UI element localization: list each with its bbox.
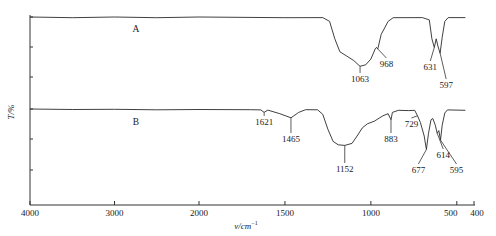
peak-leader-line <box>411 116 417 118</box>
x-tick-label: 4000 <box>21 208 40 218</box>
spectrum-curve-b <box>30 109 465 150</box>
peak-label: 597 <box>439 80 453 90</box>
x-tick-label: 400 <box>470 208 484 218</box>
peak-label: 1152 <box>336 164 354 174</box>
peak-label: 729 <box>405 119 419 129</box>
x-tick-label: 1000 <box>362 208 381 218</box>
peak-label: 631 <box>424 62 438 72</box>
spectrum-curve-a <box>30 17 465 66</box>
peak-leader-line <box>418 150 426 165</box>
peak-leader-line <box>437 133 443 149</box>
peak-label: 1621 <box>255 117 273 127</box>
x-tick-label: 1500 <box>276 208 295 218</box>
y-axis-title: T/% <box>6 104 16 119</box>
x-axis-title: ν/cm−1 <box>234 220 257 231</box>
peak-leader-line <box>376 47 386 58</box>
peak-label: 883 <box>384 134 398 144</box>
peak-label: 968 <box>380 59 394 69</box>
peak-label: 1465 <box>282 134 301 144</box>
x-tick-label: 3000 <box>106 208 125 218</box>
peak-annotations: 1063968631597162114651152883729677614595 <box>255 47 464 175</box>
peak-label: 595 <box>450 165 464 175</box>
peak-leader-line <box>440 53 446 79</box>
x-axis-ticks: 40003000200015001000500400 <box>21 201 484 218</box>
curve-label-b: B <box>133 117 139 127</box>
x-tick-label: 2000 <box>190 208 209 218</box>
ftir-spectrum-chart: 40003000200015001000500400 T/% ν/cm−1 A … <box>0 0 496 236</box>
curve-label-a: A <box>133 24 140 34</box>
peak-label: 1063 <box>351 74 370 84</box>
x-tick-label: 500 <box>444 208 458 218</box>
peak-label: 677 <box>412 165 426 175</box>
peak-leader-line <box>430 47 434 61</box>
